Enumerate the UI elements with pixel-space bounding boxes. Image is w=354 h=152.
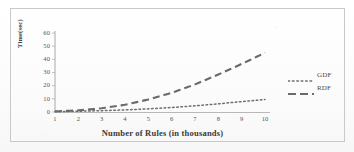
y-axis-tick-label: 20 [34,82,50,89]
x-axis-title: Number of Rules (in thousands) [55,128,270,138]
x-axis-tick-label: 9 [235,116,249,123]
y-axis-tick-label: 10 [34,96,50,103]
x-axis-tick-label: 4 [118,116,132,123]
series-line-gdf [55,99,265,111]
y-axis-tick-label: 40 [34,56,50,63]
x-axis-tick-label: 8 [211,116,225,123]
x-axis-tick-label: 10 [258,116,272,123]
x-axis-tick-label: 5 [141,116,155,123]
x-axis-tick-label: 7 [188,116,202,123]
y-axis-title: Time(sec) [16,2,23,48]
x-axis-tick-label: 6 [165,116,179,123]
legend-label-rdf: RDF [314,84,331,92]
figure-container: 0102030405060 12345678910 Time(sec) Numb… [0,0,354,152]
legend-swatch-rdf [288,84,314,92]
x-axis-tick-label: 2 [71,116,85,123]
series-line-rdf [55,53,265,112]
y-axis-tick-label: 60 [34,30,50,37]
chart-legend: GDF RDF [288,68,346,94]
legend-swatch-gdf [288,71,314,79]
y-axis-tick-label: 0 [34,109,50,116]
legend-label-gdf: GDF [314,71,332,79]
y-axis-tick-label: 30 [34,69,50,76]
y-axis-tick-label: 50 [34,43,50,50]
x-axis-tick-label: 1 [48,116,62,123]
legend-item-gdf[interactable]: GDF [288,68,346,81]
legend-item-rdf[interactable]: RDF [288,81,346,94]
x-axis-tick-label: 3 [95,116,109,123]
